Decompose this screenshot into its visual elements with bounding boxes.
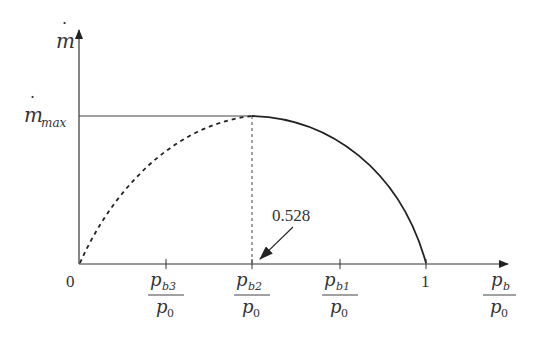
critical-ratio-label: 0.528: [272, 206, 310, 225]
svg-text:0: 0: [167, 307, 174, 320]
svg-text:p: p: [236, 269, 248, 290]
y-axis-label: m ˙: [56, 19, 75, 53]
flow-rate-diagram: 0.528 m ˙ m ˙ max 0 1 p b3 p 0 p b2 p 0 …: [0, 0, 540, 347]
svg-text:˙: ˙: [28, 93, 37, 114]
svg-text:0: 0: [341, 307, 348, 320]
svg-text:b3: b3: [162, 280, 176, 293]
m-max-label: m ˙ max: [24, 93, 67, 130]
tick-label-pb1: p b1 p 0: [322, 269, 358, 320]
svg-text:b1: b1: [336, 280, 350, 293]
svg-text:p: p: [491, 269, 503, 290]
tick-label-pb2: p b2 p 0: [234, 269, 270, 320]
svg-text:max: max: [41, 116, 67, 130]
svg-text:p: p: [324, 269, 336, 290]
svg-text:b: b: [503, 280, 510, 293]
x-axis-label: p b p 0: [483, 269, 516, 320]
dashed-curve: [80, 116, 252, 263]
axes: [79, 30, 508, 269]
svg-text:˙: ˙: [60, 19, 69, 40]
svg-text:p: p: [150, 269, 162, 290]
tick-label-pb3: p b3 p 0: [148, 269, 184, 320]
svg-text:0: 0: [501, 307, 508, 320]
svg-text:0: 0: [253, 307, 260, 320]
one-label: 1: [421, 272, 430, 291]
critical-ratio-arrow: [260, 227, 293, 259]
origin-label: 0: [66, 272, 75, 291]
svg-text:b2: b2: [248, 280, 262, 293]
